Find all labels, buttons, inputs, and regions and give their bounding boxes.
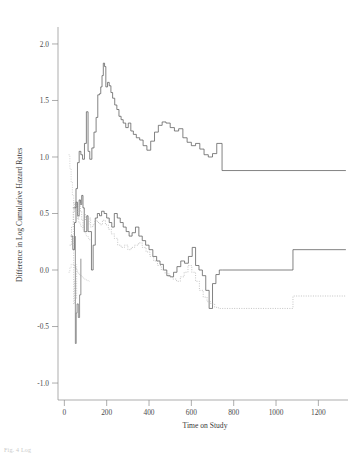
series-line-early-confidence-band-lower-dotted bbox=[69, 264, 90, 281]
y-tick-label: -1.0 bbox=[37, 379, 49, 388]
y-tick-label: 2.0 bbox=[40, 40, 50, 49]
x-tick-label: 1000 bbox=[269, 408, 284, 417]
y-axis-title: Difference in Log Cumulative Hazard Rate… bbox=[15, 148, 24, 282]
x-tick-label: 0 bbox=[62, 408, 66, 417]
chart-canvas: -1.0-0.50.00.51.01.52.0 0200400600800100… bbox=[0, 0, 355, 454]
series-line-upper-curve-solid bbox=[73, 63, 346, 208]
figure-caption: Fig. 4 Log bbox=[4, 447, 31, 453]
series-line-early-vertical-spike-deep-dip bbox=[75, 236, 81, 343]
series-line-middle-curve-solid bbox=[71, 195, 346, 308]
x-tick-label: 800 bbox=[228, 408, 239, 417]
series-group bbox=[69, 63, 346, 343]
x-tick-label: 200 bbox=[101, 408, 112, 417]
x-tick-label: 400 bbox=[143, 408, 154, 417]
y-tick-label: 0.0 bbox=[40, 266, 50, 275]
figure-panel: -1.0-0.50.00.51.01.52.0 0200400600800100… bbox=[0, 0, 355, 454]
x-tick-label: 1200 bbox=[311, 408, 326, 417]
x-tick-label: 600 bbox=[186, 408, 197, 417]
x-axis-title: Time on Study bbox=[183, 421, 228, 430]
series-line-lower-curve-dotted bbox=[70, 202, 346, 308]
y-tick-label: 0.5 bbox=[40, 209, 50, 218]
y-tick-label: -0.5 bbox=[37, 322, 49, 331]
y-tick-label: 1.5 bbox=[40, 96, 50, 105]
y-ticks-group: -1.0-0.50.00.51.01.52.0 bbox=[37, 40, 58, 388]
x-ticks-group: 020040060080010001200 bbox=[62, 400, 326, 417]
y-tick-label: 1.0 bbox=[40, 153, 50, 162]
